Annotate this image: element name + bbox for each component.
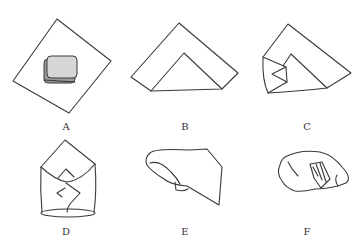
inner-triangle-right	[66, 183, 80, 212]
folded-corners-edge	[41, 164, 95, 182]
folded-triangle-outer	[131, 23, 238, 91]
right-side	[94, 164, 96, 212]
flap-tip-triangle	[272, 67, 287, 82]
rectangular-item	[44, 56, 77, 83]
label-d: D	[62, 226, 70, 237]
bottom-ellipse	[41, 209, 95, 217]
inner-triangle-top	[58, 169, 74, 178]
panel-c-figure	[263, 24, 351, 93]
panel-d-figure	[41, 140, 96, 217]
left-side	[41, 167, 42, 212]
label-a: A	[62, 121, 69, 132]
label-e: E	[181, 226, 188, 237]
top-flap	[41, 140, 95, 167]
roll-inner-curve	[150, 162, 180, 184]
panel-e-figure	[146, 149, 222, 205]
panel-f-figure	[278, 151, 348, 191]
inner-fold-triangle	[151, 53, 222, 91]
right-end-fold	[336, 175, 338, 186]
label-f: F	[304, 226, 311, 237]
label-b: B	[181, 121, 188, 132]
inner-fold-edge	[283, 54, 327, 88]
panel-b-figure	[131, 23, 238, 91]
label-c: C	[303, 121, 311, 132]
inner-triangle-left	[57, 188, 65, 197]
rolled-bundle-outline	[146, 149, 222, 205]
folded-shape-outer	[263, 24, 351, 93]
bundle-crease	[288, 162, 298, 176]
panel-a-figure	[13, 19, 111, 113]
